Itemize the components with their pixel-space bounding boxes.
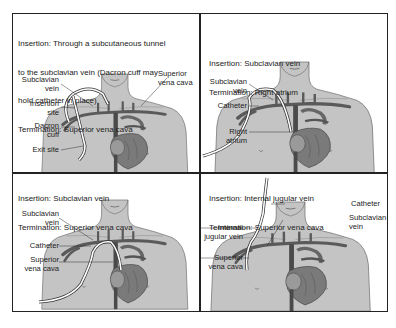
- panel-subclavian-svc: Insertion: Subclavian vein Termination: …: [13, 174, 199, 311]
- label-subclavian-vein: Subclavian vein: [17, 76, 59, 93]
- label-catheter: Catheter: [15, 242, 59, 251]
- caption-line: Insertion: Internal jugular vein: [209, 194, 324, 204]
- label-subclavian-vein: Subclavian vein: [203, 78, 247, 95]
- caption-line: Insertion: Subclavian vein: [209, 59, 300, 69]
- caption-line: Insertion: Through a subcutaneous tunnel: [18, 39, 166, 49]
- label-subclavian-vein: Subclavian vein: [349, 214, 386, 231]
- panel-internal-jugular: Insertion: Internal jugular vein Termina…: [201, 174, 387, 311]
- label-insertion-site: Insertion site: [17, 100, 59, 117]
- label-internal-jugular-vein: Internal jugular vein: [201, 224, 243, 241]
- label-subclavian-vein: Subclavian vein: [15, 210, 59, 227]
- label-superior-vena-cava: Superior vena cava: [158, 70, 193, 87]
- label-superior-vena-cava: Superior vena cava: [201, 254, 243, 271]
- caption-line: Insertion: Subclavian vein: [18, 194, 133, 204]
- label-catheter: Catheter: [203, 102, 247, 111]
- label-superior-vena-cava: Superior vena cava: [15, 256, 59, 273]
- label-dacron-cuff: Dacron cuff: [17, 122, 59, 139]
- label-exit-site: Exit site: [17, 146, 59, 155]
- panel-subclavian-right-atrium: Insertion: Subclavian vein Termination: …: [201, 14, 387, 172]
- label-catheter: Catheter: [351, 200, 380, 209]
- panel-tunneled-catheter: Insertion: Through a subcutaneous tunnel…: [13, 14, 199, 172]
- label-right-atrium: Right atrium: [203, 128, 247, 145]
